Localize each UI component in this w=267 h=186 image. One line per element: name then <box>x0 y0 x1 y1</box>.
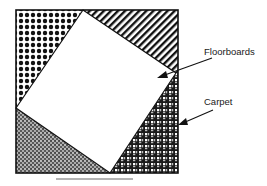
outer-square <box>16 10 178 173</box>
carpet-arrow <box>178 110 213 125</box>
floorboards-label: Floorboards <box>204 46 255 57</box>
tiling-diagram <box>0 0 267 186</box>
carpet-label: Carpet <box>204 96 233 107</box>
arrowhead-icon <box>178 118 188 125</box>
